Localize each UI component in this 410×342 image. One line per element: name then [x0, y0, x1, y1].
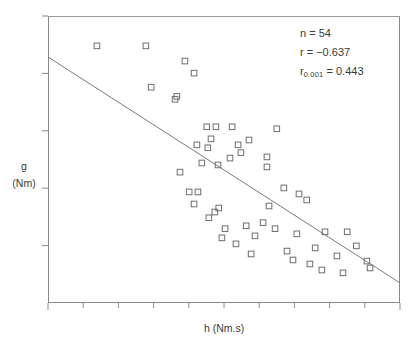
y-axis-title: g (Nm): [2, 158, 46, 192]
statistics-annotation: n = 54 r = −0.637 r0.001 = 0.443: [300, 24, 364, 82]
y-axis-title-symbol: g: [2, 158, 46, 175]
x-axis-title: h (Nm.s): [48, 322, 400, 334]
critical-r-label: r0.001 = 0.443: [300, 62, 364, 82]
x-axis-ticks: [48, 303, 400, 310]
scatter-plot-figure: n = 54 r = −0.637 r0.001 = 0.443 g (Nm) …: [0, 0, 410, 342]
sample-size-label: n = 54: [300, 24, 364, 43]
critical-r-subscript: 0.001: [304, 70, 324, 79]
y-axis-title-unit: (Nm): [2, 175, 46, 192]
correlation-label: r = −0.637: [300, 43, 364, 62]
critical-r-value: = 0.443: [323, 65, 363, 77]
cut-off-caption-remnant: [80, 0, 380, 4]
